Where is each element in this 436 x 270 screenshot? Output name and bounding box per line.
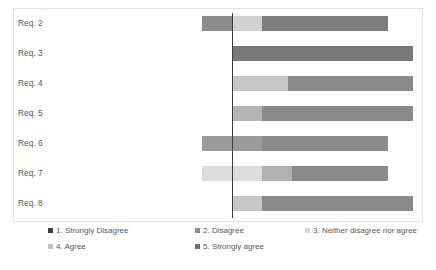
bar-row [0,106,436,121]
bar-row [0,166,436,181]
bar-row [0,46,436,61]
legend-label: 3. Neither disagree nor agree [313,226,417,235]
bar-segment [232,196,262,211]
legend-swatch-icon [195,228,200,233]
legend-swatch-icon [305,228,310,233]
legend-item[interactable]: 3. Neither disagree nor agree [305,226,417,235]
legend-label: 4. Agree [56,242,86,251]
bar-row [0,136,436,151]
bar-segment [232,16,262,31]
bar-segment [288,76,413,91]
bars-layer [0,0,436,222]
legend-item[interactable]: 2. Disagree [195,226,244,235]
bar-segment [262,16,388,31]
legend-swatch-icon [48,244,53,249]
zero-axis-line [232,13,233,218]
chart-legend: 1. Strongly Disagree2. Disagree3. Neithe… [13,226,423,264]
bar-segment [262,106,413,121]
bar-segment [262,136,388,151]
bar-row [0,76,436,91]
bar-segment [202,16,232,31]
legend-label: 2. Disagree [203,226,244,235]
likert-bar-chart: Req. 2 Req. 3 Req. 4 Req. 5 Req. 6 Req. … [0,0,436,270]
legend-swatch-icon [195,244,200,249]
bar-segment [232,46,413,61]
legend-item[interactable]: 1. Strongly Disagree [48,226,128,235]
bar-segment [232,76,288,91]
bar-row [0,196,436,211]
legend-label: 1. Strongly Disagree [56,226,128,235]
legend-swatch-icon [48,228,53,233]
legend-label: 5. Strongly agree [203,242,264,251]
bar-segment [262,166,292,181]
bar-segment [232,106,262,121]
bar-segment [292,166,388,181]
legend-item[interactable]: 4. Agree [48,242,86,251]
legend-item[interactable]: 5. Strongly agree [195,242,264,251]
bar-segment [262,196,413,211]
bar-row [0,16,436,31]
